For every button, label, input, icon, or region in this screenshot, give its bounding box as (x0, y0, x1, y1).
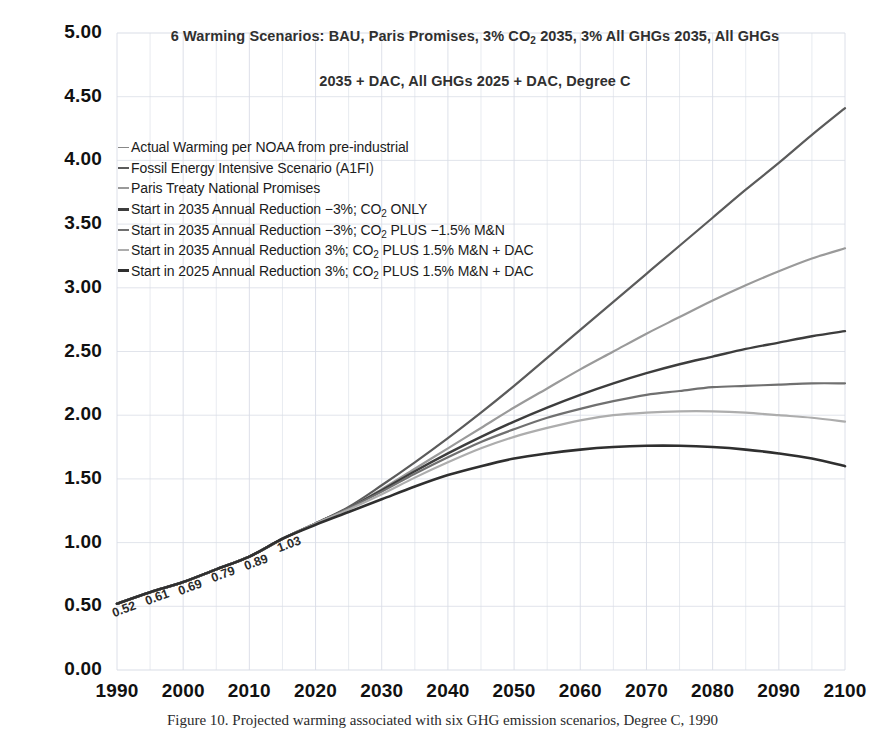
y-tick-label: 2.00 (38, 403, 102, 425)
legend-item-5: Start in 2035 Annual Reduction 3%; CO2 P… (118, 240, 533, 261)
chart-legend: Actual Warming per NOAA from pre-industr… (118, 137, 533, 281)
y-tick-label: 1.50 (38, 467, 102, 489)
legend-item-6: Start in 2025 Annual Reduction 3%; CO2 P… (118, 261, 533, 282)
x-tick-label: 2080 (678, 680, 748, 702)
x-tick-label: 1990 (82, 680, 152, 702)
y-tick-label: 4.50 (38, 85, 102, 107)
legend-item-2: Paris Treaty National Promises (118, 178, 533, 199)
legend-item-3: Start in 2035 Annual Reduction −3%; CO2 … (118, 199, 533, 220)
legend-item-1: Fossil Energy Intensive Scenario (A1FI) (118, 158, 533, 179)
legend-item-label: Actual Warming per NOAA from pre-industr… (131, 139, 409, 155)
legend-line-swatch (118, 187, 129, 189)
x-tick-label: 2070 (611, 680, 681, 702)
legend-line-swatch (118, 167, 129, 169)
x-tick-label: 2010 (214, 680, 284, 702)
y-tick-label: 0.50 (38, 594, 102, 616)
legend-item-label: Paris Treaty National Promises (131, 180, 320, 196)
y-tick-label: 0.00 (38, 658, 102, 680)
legend-item-label: Start in 2025 Annual Reduction 3%; CO2 P… (131, 263, 533, 279)
x-tick-label: 2020 (281, 680, 351, 702)
x-tick-label: 2050 (479, 680, 549, 702)
y-tick-label: 2.50 (38, 340, 102, 362)
chart-title-line-2: 2035 + DAC, All GHGs 2025 + DAC, Degree … (125, 73, 825, 89)
figure-container: 5.004.504.003.503.002.502.001.501.000.50… (0, 0, 885, 738)
y-tick-label: 1.00 (38, 531, 102, 553)
legend-item-4: Start in 2035 Annual Reduction −3%; CO2 … (118, 219, 533, 240)
legend-line-swatch (118, 249, 129, 251)
legend-line-swatch (118, 229, 129, 231)
x-tick-label: 2090 (744, 680, 814, 702)
y-tick-label: 3.50 (38, 212, 102, 234)
y-tick-label: 4.00 (38, 148, 102, 170)
legend-line-swatch (118, 147, 129, 148)
legend-item-label: Start in 2035 Annual Reduction 3%; CO2 P… (131, 242, 533, 258)
x-tick-label: 2060 (545, 680, 615, 702)
legend-item-0: Actual Warming per NOAA from pre-industr… (118, 137, 533, 158)
x-tick-label: 2000 (148, 680, 218, 702)
x-tick-label: 2030 (347, 680, 417, 702)
y-tick-label: 5.00 (38, 21, 102, 43)
legend-item-label: Fossil Energy Intensive Scenario (A1FI) (131, 160, 374, 176)
legend-line-swatch (118, 269, 129, 272)
y-tick-label: 3.00 (38, 276, 102, 298)
warming-scenarios-line-chart (0, 0, 885, 738)
x-tick-label: 2100 (810, 680, 880, 702)
legend-item-label: Start in 2035 Annual Reduction −3%; CO2 … (131, 201, 427, 217)
figure-caption: Figure 10. Projected warming associated … (0, 712, 885, 738)
x-tick-label: 2040 (413, 680, 483, 702)
legend-item-label: Start in 2035 Annual Reduction −3%; CO2 … (131, 222, 505, 238)
legend-line-swatch (118, 208, 129, 211)
chart-title-line-1: 6 Warming Scenarios: BAU, Paris Promises… (125, 28, 825, 44)
